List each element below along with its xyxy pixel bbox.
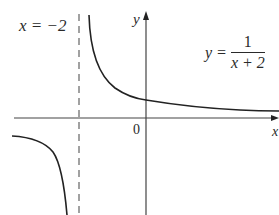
x-axis-arrow-icon (271, 115, 279, 121)
fraction-numerator: 1 (241, 34, 255, 52)
function-label: y = 1 x + 2 (205, 34, 265, 71)
fraction: 1 x + 2 (231, 34, 265, 71)
function-lhs: y = (205, 45, 227, 61)
asymptote-label: x = −2 (19, 17, 67, 34)
y-axis-label: y (133, 12, 140, 27)
y-axis-arrow-icon (143, 11, 149, 20)
function-graph: x = −2 y 0 x y = 1 x + 2 (0, 0, 279, 215)
x-axis-label: x (272, 125, 278, 139)
origin-label: 0 (133, 123, 140, 137)
fraction-denominator: x + 2 (231, 53, 265, 71)
curve-left-branch (12, 136, 67, 215)
